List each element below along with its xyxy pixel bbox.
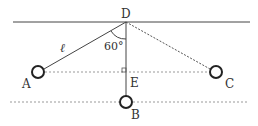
bob-c [210,66,222,78]
right-angle-marker [122,68,126,72]
label-d: D [121,7,131,21]
label-a: A [21,77,31,91]
string-dc [126,22,210,69]
label-e: E [130,76,139,90]
label-b: B [131,108,140,122]
angle-label: 60° [104,40,124,53]
pendulum-diagram: D A C B E ℓ 60° [0,0,258,126]
bob-a [32,66,44,78]
length-label: ℓ [60,41,65,55]
label-c: C [225,77,234,91]
bob-b [120,96,132,108]
angle-arc [111,31,126,39]
